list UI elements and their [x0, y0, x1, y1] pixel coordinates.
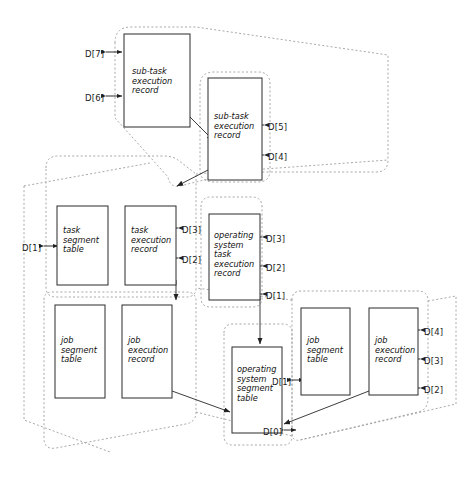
port-label-p_d0: D[0]	[263, 427, 282, 437]
port-label-p_d4_top: D[4]	[268, 152, 287, 162]
port-label-p_d4_job: D[4]	[424, 327, 443, 337]
ptr-jobexec-to-ossegtable	[172, 391, 230, 412]
scope-link-a	[24, 163, 150, 186]
box-label-subtask_exec_2: sub-task execution record	[214, 112, 254, 141]
ptr-jobexecright-to-ossegtable	[284, 391, 369, 424]
diagram-canvas: sub-task execution recordsub-task execut…	[0, 0, 465, 477]
port-label-p_d7: D[7]	[85, 49, 104, 59]
port-label-p_d2_os: D[2]	[266, 263, 285, 273]
port-label-p_d1_left: D[1]	[22, 243, 41, 253]
port-label-p_d2_task: D[2]	[182, 255, 201, 265]
port-label-p_d6: D[6]	[85, 93, 104, 103]
box-label-job_segment_table_left: job segment table	[61, 336, 97, 365]
port-label-p_d1_os: D[1]	[266, 291, 285, 301]
box-label-task_segment_table: task segment table	[63, 226, 99, 255]
port-label-p_d5: D[5]	[268, 122, 287, 132]
ptr-subtask2-to-taskexec	[177, 170, 208, 186]
port-label-p_d1_jobseg: D[1]	[272, 377, 291, 387]
box-label-os_task_exec_record: operating system task execution record	[214, 231, 254, 279]
port-label-p_d3_os: D[3]	[266, 234, 285, 244]
box-label-subtask_exec_1: sub-task execution record	[132, 67, 172, 96]
port-label-p_d2_job: D[2]	[424, 385, 443, 395]
box-label-os_segment_table: operating system segment table	[237, 365, 277, 403]
port-label-p_d3_task: D[3]	[182, 225, 201, 235]
box-label-job_segment_table_right: job segment table	[307, 336, 343, 365]
box-label-task_exec_record: task execution record	[131, 226, 171, 255]
port-label-p_d3_job: D[3]	[424, 356, 443, 366]
box-label-job_exec_record_left: job execution record	[128, 336, 168, 365]
box-label-job_exec_record_right: job execution record	[375, 336, 415, 365]
